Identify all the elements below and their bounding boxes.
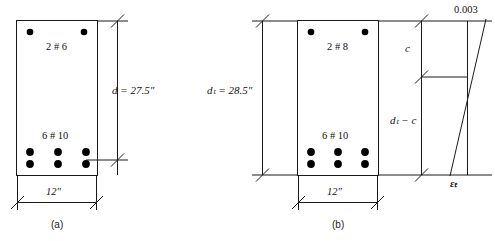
- depth-label-a: d = 27.5″: [112, 84, 154, 96]
- bottom-bars-label-b: 6 # 10: [322, 130, 348, 141]
- rebar-dot: [334, 160, 342, 168]
- panel-caption-b: (b): [332, 219, 344, 230]
- top-bars-label-b: 2 # 8: [327, 41, 348, 52]
- width-label-a: 12″: [46, 186, 61, 197]
- panel-caption-a: (a): [51, 219, 63, 230]
- rebar-dot: [361, 148, 369, 156]
- bottom-bars-label-a: 6 # 10: [42, 130, 68, 141]
- bottom-bars-group-b: [307, 148, 369, 168]
- lower-zone-label: dₜ − c: [390, 114, 416, 127]
- rebar-dot: [307, 160, 315, 168]
- panel-b-graphics: [0, 0, 495, 241]
- neutral-axis-depth-label: c: [405, 42, 410, 54]
- top-strain-label: 0.003: [454, 4, 478, 15]
- top-bars-label-a: 2 # 6: [46, 41, 67, 52]
- top-bars-group-b: [308, 29, 369, 36]
- rebar-dot: [361, 160, 369, 168]
- rebar-dot: [307, 148, 315, 156]
- rebar-dot: [308, 29, 315, 36]
- tensile-strain-label: εₜ: [450, 177, 457, 189]
- depth-label-b: dₜ = 28.5″: [207, 84, 252, 97]
- rebar-dot: [362, 29, 369, 36]
- figure-canvas: 2 # 6 6 # 10 d = 27.5″ 12″ (a) 2 # 8 6 #…: [0, 0, 495, 241]
- rebar-dot: [334, 148, 342, 156]
- width-label-b: 12″: [327, 186, 342, 197]
